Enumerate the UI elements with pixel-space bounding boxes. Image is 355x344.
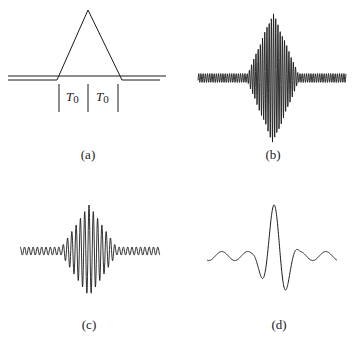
panel-a-label: (a) bbox=[81, 147, 95, 163]
figure-canvas bbox=[0, 0, 355, 344]
panel-d-waveform bbox=[207, 205, 337, 290]
t0-label-left: T0 bbox=[66, 89, 79, 105]
panel-c-label: (c) bbox=[82, 317, 96, 333]
panel-a-triangle bbox=[8, 10, 166, 112]
panel-b-waveform bbox=[198, 14, 346, 142]
panel-b-label: (b) bbox=[265, 147, 280, 163]
panel-c-waveform bbox=[20, 205, 160, 293]
panel-d-label: (d) bbox=[271, 317, 286, 333]
t0-label-right: T0 bbox=[96, 89, 109, 105]
